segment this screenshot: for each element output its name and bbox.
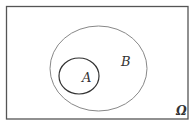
set-a-label: A — [81, 70, 91, 85]
universe-label: Ω — [175, 104, 187, 118]
set-b-label: B — [120, 54, 131, 69]
universe-rectangle — [7, 7, 189, 120]
set-b-ellipse — [50, 26, 147, 111]
set-a-ellipse — [59, 58, 99, 94]
venn-diagram: B A Ω — [0, 0, 192, 129]
